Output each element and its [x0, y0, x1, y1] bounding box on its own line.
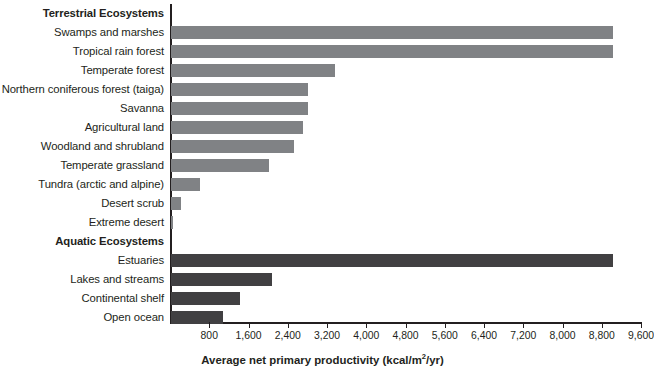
category-label: Open ocean — [0, 308, 164, 327]
chart-bar-row: Open ocean — [0, 308, 645, 327]
chart-group-row: Aquatic Ecosystems — [0, 232, 645, 251]
x-tick-label: 4,000 — [353, 330, 379, 341]
x-tick-mark — [288, 322, 289, 328]
chart-bar-row: Swamps and marshes — [0, 23, 645, 42]
category-label: Extreme desert — [0, 213, 164, 232]
bar — [171, 292, 240, 305]
category-label: Lakes and streams — [0, 270, 164, 289]
x-tick-mark — [249, 322, 250, 328]
x-tick-label: 7,200 — [510, 330, 536, 341]
chart-bar-row: Temperate forest — [0, 61, 645, 80]
chart-bar-row: Savanna — [0, 99, 645, 118]
x-tick-mark — [209, 322, 210, 328]
x-tick-label: 4,800 — [392, 330, 418, 341]
category-label: Agricultural land — [0, 118, 164, 137]
category-label: Desert scrub — [0, 194, 164, 213]
chart-bar-row: Desert scrub — [0, 194, 645, 213]
bar — [171, 159, 269, 172]
x-tick-mark — [602, 322, 603, 328]
category-label: Savanna — [0, 99, 164, 118]
x-axis-title: Average net primary productivity (kcal/m… — [0, 352, 645, 366]
x-tick-label: 9,600 — [628, 330, 654, 341]
bar — [171, 102, 308, 115]
x-axis-title-post: /yr) — [426, 354, 444, 366]
chart-bar-row: Continental shelf — [0, 289, 645, 308]
chart-bar-row: Lakes and streams — [0, 270, 645, 289]
category-label: Northern coniferous forest (taiga) — [0, 80, 164, 99]
group-heading-label: Terrestrial Ecosystems — [0, 4, 164, 23]
x-tick-label: 8,800 — [589, 330, 615, 341]
chart-bar-row: Northern coniferous forest (taiga) — [0, 80, 645, 99]
x-tick-mark — [445, 322, 446, 328]
x-tick-label: 8,000 — [549, 330, 575, 341]
bar — [171, 45, 613, 58]
x-tick-mark — [523, 322, 524, 328]
x-tick-mark — [484, 322, 485, 328]
bar — [171, 140, 294, 153]
chart-bar-row: Estuaries — [0, 251, 645, 270]
x-tick-mark — [327, 322, 328, 328]
x-tick-mark — [563, 322, 564, 328]
x-tick-label: 2,400 — [275, 330, 301, 341]
bar — [171, 64, 335, 77]
category-label: Tundra (arctic and alpine) — [0, 175, 164, 194]
group-heading-label: Aquatic Ecosystems — [0, 232, 164, 251]
chart-bar-row: Tundra (arctic and alpine) — [0, 175, 645, 194]
bar — [171, 121, 303, 134]
bar — [171, 178, 200, 191]
x-tick-mark — [406, 322, 407, 328]
chart-bar-row: Temperate grassland — [0, 156, 645, 175]
category-label: Continental shelf — [0, 289, 164, 308]
x-tick-label: 6,400 — [471, 330, 497, 341]
chart-bar-row: Woodland and shrubland — [0, 137, 645, 156]
chart-bar-row: Extreme desert — [0, 213, 645, 232]
category-label: Estuaries — [0, 251, 164, 270]
category-label: Tropical rain forest — [0, 42, 164, 61]
x-tick-label: 1,600 — [235, 330, 261, 341]
x-tick-label: 800 — [201, 330, 218, 341]
chart-group-row: Terrestrial Ecosystems — [0, 4, 645, 23]
x-tick-label: 3,200 — [314, 330, 340, 341]
x-tick-mark — [641, 322, 642, 328]
category-label: Temperate grassland — [0, 156, 164, 175]
chart-bar-row: Agricultural land — [0, 118, 645, 137]
bar — [171, 83, 308, 96]
bar — [171, 26, 613, 39]
x-axis-title-pre: Average net primary productivity (kcal/m — [201, 354, 422, 366]
x-tick-mark — [366, 322, 367, 328]
category-label: Woodland and shrubland — [0, 137, 164, 156]
bar — [171, 273, 272, 286]
bar — [171, 197, 181, 210]
bar — [171, 216, 173, 229]
bar — [171, 311, 223, 324]
bar — [171, 254, 613, 267]
category-label: Temperate forest — [0, 61, 164, 80]
x-tick-label: 5,600 — [432, 330, 458, 341]
category-label: Swamps and marshes — [0, 23, 164, 42]
chart-bar-row: Tropical rain forest — [0, 42, 645, 61]
